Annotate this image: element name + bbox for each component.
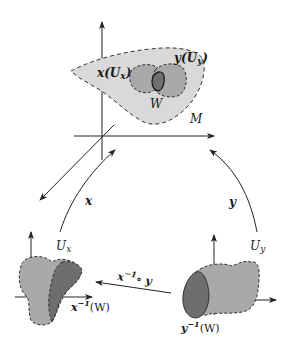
overlap-W [152, 72, 164, 91]
arrow-y-map [210, 150, 257, 232]
label-y-map: y [228, 195, 237, 209]
label-y-image: y(Uy) [173, 51, 208, 66]
manifold-chart-diagram: x(Ux) y(Uy) W M x y Ux x−1(W) x−1∘ y Uy … [0, 0, 291, 351]
arrow-x-map [60, 150, 115, 232]
label-M: M [189, 112, 203, 126]
label-transition-map: x−1∘ y [116, 267, 155, 288]
label-x-image: x(Ux) [96, 66, 131, 81]
label-U-y: Uy [250, 239, 266, 254]
label-W: W [150, 97, 164, 111]
label-y-inverse-W: y−1(W) [180, 319, 220, 335]
preimage-y-W [183, 272, 209, 318]
label-U-x: Ux [56, 239, 71, 254]
label-x-map: x [84, 194, 93, 208]
label-x-inverse-W: x−1(W) [70, 298, 110, 314]
arrow-transition-map [96, 282, 171, 293]
